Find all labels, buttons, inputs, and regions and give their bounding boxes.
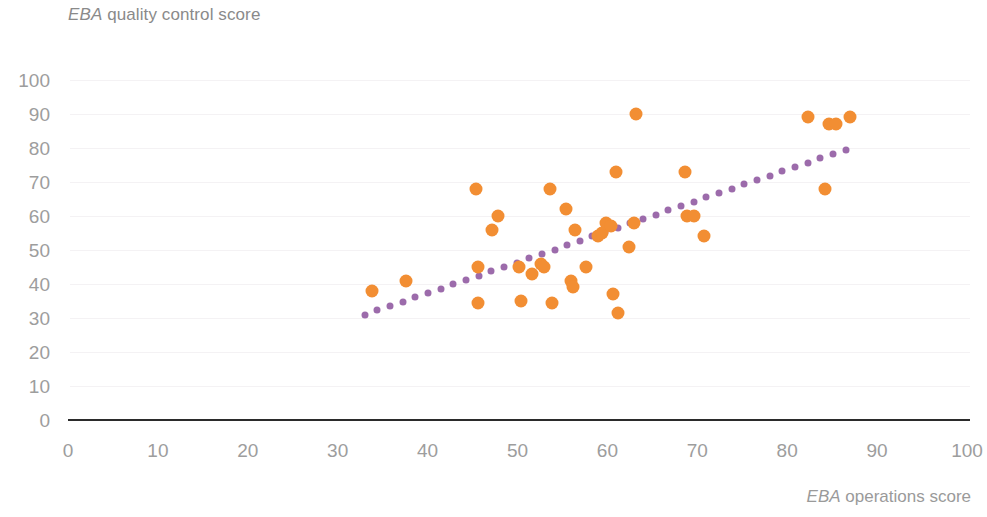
y-axis-tick-label: 20: [4, 343, 50, 362]
gridline: [70, 80, 970, 81]
trendline-dot: [437, 285, 444, 292]
scatter-point: [678, 165, 691, 178]
x-axis-tick-label: 10: [128, 441, 188, 460]
gridline: [70, 386, 970, 387]
scatter-point: [545, 296, 558, 309]
trendline-dot: [488, 268, 495, 275]
trendline-dot: [500, 263, 507, 270]
x-axis-tick-label: 0: [38, 441, 98, 460]
scatter-point: [365, 284, 378, 297]
gridline: [70, 182, 970, 183]
x-axis-tick-label: 50: [488, 441, 548, 460]
x-axis-title-emphasis: EBA: [807, 487, 841, 506]
trendline-dot: [374, 307, 381, 314]
gridline: [70, 318, 970, 319]
x-axis-tick-label: 100: [937, 441, 987, 460]
scatter-point: [844, 111, 857, 124]
scatter-point: [687, 210, 700, 223]
plot-area: 0102030405060708090100 01020304050607080…: [0, 0, 987, 517]
scatter-chart: EBA quality control score 01020304050607…: [0, 0, 987, 517]
scatter-point: [801, 111, 814, 124]
scatter-point: [630, 108, 643, 121]
scatter-point: [470, 182, 483, 195]
scatter-point: [610, 165, 623, 178]
x-axis-tick-label: 40: [398, 441, 458, 460]
scatter-point: [400, 274, 413, 287]
scatter-point: [698, 230, 711, 243]
y-axis-tick-label: 40: [4, 275, 50, 294]
scatter-point: [579, 261, 592, 274]
y-axis-tick-label: 80: [4, 139, 50, 158]
trendline-dot: [678, 203, 685, 210]
trendline-dot: [716, 190, 723, 197]
scatter-point: [486, 223, 499, 236]
y-axis-tick-label: 0: [4, 411, 50, 430]
scatter-point: [543, 182, 556, 195]
y-axis-tick-label: 70: [4, 173, 50, 192]
trendline-dot: [361, 311, 368, 318]
scatter-point: [471, 261, 484, 274]
trendline-dot: [412, 294, 419, 301]
trendline-dot: [652, 211, 659, 218]
trendline-dot: [386, 302, 393, 309]
scatter-point: [606, 288, 619, 301]
scatter-point: [567, 281, 580, 294]
trendline-dot: [792, 164, 799, 171]
x-axis-tick-label: 90: [847, 441, 907, 460]
scatter-point: [525, 267, 538, 280]
trendline-dot: [842, 146, 849, 153]
y-axis-tick-label: 90: [4, 105, 50, 124]
scatter-point: [622, 240, 635, 253]
gridline: [70, 352, 970, 353]
gridline: [70, 114, 970, 115]
trendline-dot: [564, 242, 571, 249]
trendline-dot: [779, 168, 786, 175]
trendline-dot: [450, 281, 457, 288]
trendline-dot: [804, 159, 811, 166]
scatter-point: [818, 182, 831, 195]
trendline-dot: [551, 246, 558, 253]
trendline-dot: [690, 198, 697, 205]
x-axis-tick-label: 80: [757, 441, 817, 460]
trendline-dot: [424, 289, 431, 296]
scatter-point: [515, 295, 528, 308]
trendline-dot: [703, 194, 710, 201]
trendline-dot: [754, 177, 761, 184]
scatter-point: [560, 203, 573, 216]
scatter-point: [513, 261, 526, 274]
scatter-point: [538, 261, 551, 274]
trendline-dot: [766, 172, 773, 179]
trendline-dot: [576, 237, 583, 244]
trendline-dot: [829, 151, 836, 158]
trendline-dot: [728, 185, 735, 192]
y-axis-tick-label: 100: [4, 71, 50, 90]
trendline-dot: [665, 207, 672, 214]
trendline-dot: [526, 255, 533, 262]
scatter-point: [491, 210, 504, 223]
y-axis-tick-label: 50: [4, 241, 50, 260]
x-axis-title-rest: operations score: [841, 487, 971, 506]
x-axis-tick-label: 70: [667, 441, 727, 460]
y-axis-tick-label: 60: [4, 207, 50, 226]
gridline: [70, 216, 970, 217]
x-axis-tick-label: 60: [577, 441, 637, 460]
y-axis-tick-label: 30: [4, 309, 50, 328]
scatter-point: [604, 220, 617, 233]
trendline-dot: [817, 155, 824, 162]
x-axis-title: EBA operations score: [807, 487, 971, 507]
trendline-dot: [741, 181, 748, 188]
x-axis-tick-label: 20: [218, 441, 278, 460]
gridline: [70, 284, 970, 285]
scatter-point: [471, 296, 484, 309]
gridline: [70, 148, 970, 149]
x-axis-line: [68, 419, 970, 421]
scatter-point: [612, 306, 625, 319]
scatter-point: [569, 223, 582, 236]
scatter-point: [829, 118, 842, 131]
scatter-point: [628, 216, 641, 229]
x-axis-tick-label: 30: [308, 441, 368, 460]
y-axis-tick-label: 10: [4, 377, 50, 396]
gridline: [70, 250, 970, 251]
trendline-dot: [462, 276, 469, 283]
trendline-dot: [399, 298, 406, 305]
